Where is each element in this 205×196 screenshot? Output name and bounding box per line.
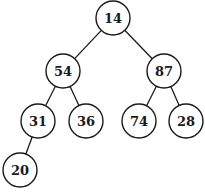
tree-edge-54-31 [46,86,56,106]
tree-node: 74 [122,104,156,138]
tree-edge-14-54 [75,30,102,58]
tree-node: 36 [69,104,103,138]
tree-edge-87-28 [171,87,179,106]
node-label: 74 [130,114,148,129]
binary-tree-diagram: 1454873136742820 [0,0,205,196]
tree-node: 20 [3,153,37,187]
tree-node: 28 [169,104,203,138]
tree-node: 54 [46,54,80,88]
node-label: 14 [104,11,122,26]
tree-nodes: 1454873136742820 [3,1,203,187]
node-label: 36 [77,114,95,129]
node-label: 28 [177,114,195,129]
tree-node: 14 [96,1,130,35]
tree-edges [26,30,179,154]
node-label: 54 [54,64,72,79]
tree-edge-54-36 [70,86,79,105]
node-label: 31 [29,114,47,129]
tree-node: 87 [147,54,181,88]
node-label: 87 [155,64,173,79]
tree-edge-31-20 [26,137,32,154]
tree-edge-14-87 [125,30,152,59]
tree-edge-87-74 [147,86,157,106]
node-label: 20 [11,163,29,178]
tree-node: 31 [21,104,55,138]
